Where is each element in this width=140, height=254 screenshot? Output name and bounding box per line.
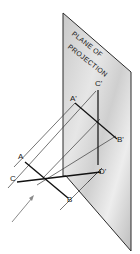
label-a-prime: A' (70, 95, 77, 103)
label-a: A (18, 153, 23, 161)
label-d-prime: D' (99, 168, 106, 176)
label-c-prime: C' (95, 80, 102, 88)
label-b: B (67, 196, 72, 204)
projection-direction-arrow (12, 195, 34, 222)
label-b-prime: B' (117, 136, 124, 144)
label-c: C (10, 175, 16, 183)
diagram-canvas (0, 0, 140, 254)
